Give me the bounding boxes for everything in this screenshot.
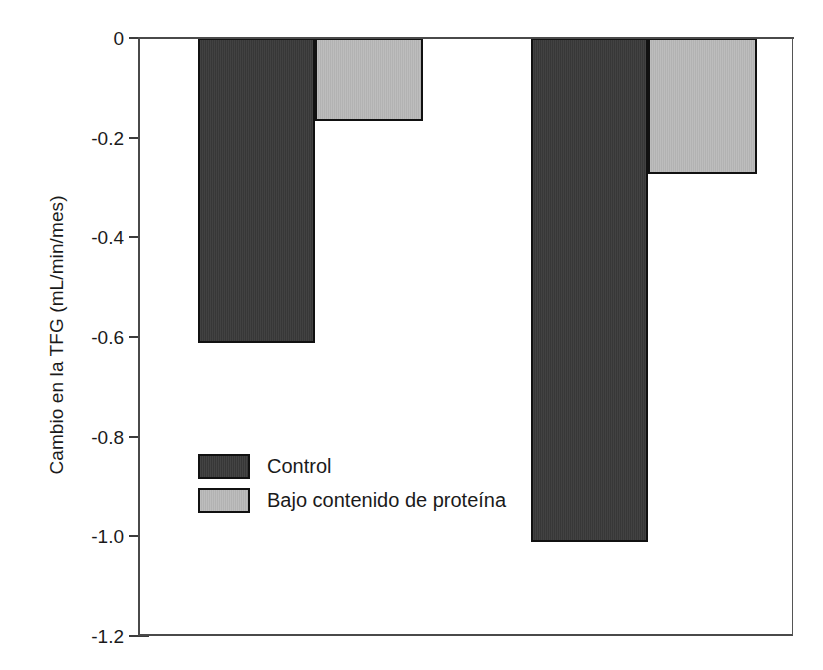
bar-group1-lowprotein — [315, 38, 423, 121]
plot-area — [138, 38, 793, 636]
y-axis-tick-label: -0.4 — [42, 228, 124, 247]
y-axis-tick-labels: 0-0.2-0.4-0.6-0.8-1.0-1.2 — [42, 0, 124, 670]
legend-swatch — [198, 454, 250, 479]
y-axis-tick-label: -0.6 — [42, 328, 124, 347]
y-axis-tick-label: -0.2 — [42, 128, 124, 147]
y-axis-tick-label: -1.0 — [42, 527, 124, 546]
y-axis-tick-label: 0 — [42, 29, 124, 48]
legend-item: Control — [198, 449, 506, 483]
y-axis-tick-label: -0.8 — [42, 427, 124, 446]
bar-group1-control — [198, 38, 315, 343]
bar-group2-control — [531, 38, 648, 542]
legend-item: Bajo contenido de proteína — [198, 483, 506, 517]
legend-label: Bajo contenido de proteína — [267, 490, 506, 510]
legend-swatch — [198, 488, 250, 513]
bar-chart-figure: Cambio en la TFG (mL/min/mes) 0-0.2-0.4-… — [0, 0, 823, 670]
zero-baseline — [138, 37, 794, 39]
legend-label: Control — [267, 456, 331, 476]
chart-legend: ControlBajo contenido de proteína — [198, 449, 506, 517]
bar-group2-lowprotein — [648, 38, 757, 174]
y-axis-tick-label: -1.2 — [42, 627, 124, 646]
